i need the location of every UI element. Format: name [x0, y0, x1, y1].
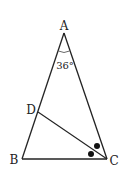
angle-marker-dot-upper: [94, 143, 100, 149]
angle-label-36: 36°: [56, 60, 74, 71]
vertex-label-d: D: [26, 103, 36, 117]
vertex-label-c: C: [109, 154, 118, 168]
angle-a-arc: [59, 51, 70, 53]
vertex-label-a: A: [59, 19, 69, 33]
segment-cd: [38, 112, 107, 159]
vertex-label-b: B: [10, 153, 19, 167]
segment-ac: [64, 33, 107, 159]
triangle-diagram: A B C D 36°: [0, 0, 127, 175]
angle-marker-dot-lower: [88, 151, 94, 157]
segment-ab: [22, 33, 64, 159]
